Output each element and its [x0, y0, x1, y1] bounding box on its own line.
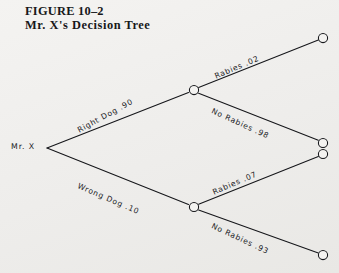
edge-wrong-dog-rabies [199, 156, 319, 204]
chance-node-right-dog [189, 85, 198, 94]
root-label-mr-x: Mr. X [11, 142, 35, 151]
terminal-node-right-dog-no-rabies [318, 138, 327, 147]
figure-container: FIGURE 10–2 Mr. X's Decision Tree Mr. X … [0, 0, 339, 273]
terminal-node-wrong-dog-no-rabies [318, 250, 327, 259]
edge-right-dog [47, 93, 189, 149]
terminal-node-wrong-dog-rabies [318, 149, 327, 158]
edge-wrong-dog [47, 148, 189, 205]
decision-tree-graphic [0, 0, 339, 273]
terminal-node-right-dog-rabies [318, 33, 327, 42]
chance-node-wrong-dog [189, 202, 198, 211]
